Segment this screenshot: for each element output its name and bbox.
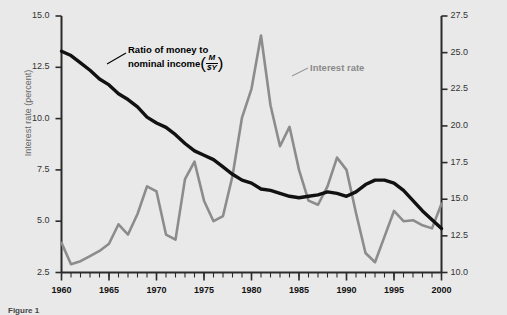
left-tick-label: 12.5: [10, 61, 50, 71]
left-tick-label: 10.0: [10, 113, 50, 123]
chart-figure: Interest rate (percent) M/$Y. Ratio of m…: [0, 0, 507, 315]
right-tick-label: 27.5: [451, 10, 491, 20]
right-tick-label: 20.0: [451, 120, 491, 130]
x-tick-label: 1985: [279, 285, 319, 295]
left-tick-label: 2.5: [10, 267, 50, 277]
x-tick-label: 1975: [184, 285, 224, 295]
x-tick-label: 2000: [422, 285, 462, 295]
annotation-interest-rate: Interest rate: [310, 62, 364, 73]
annotation-ratio-line2-text: nominal income: [128, 58, 200, 69]
right-tick-label: 10.0: [451, 267, 491, 277]
fraction-m-over-sy: M$Y: [206, 54, 218, 72]
left-tick-label: 5.0: [10, 215, 50, 225]
left-tick-label: 7.5: [10, 164, 50, 174]
right-tick-label: 25.0: [451, 47, 491, 57]
chart-background: [0, 0, 507, 315]
x-tick-label: 1990: [327, 285, 367, 295]
right-tick-label: 12.5: [451, 230, 491, 240]
x-tick-label: 1970: [137, 285, 177, 295]
annotation-money-ratio: Ratio of money to nominal income(M$Y): [128, 44, 223, 73]
annotation-ratio-line2: nominal income(M$Y): [128, 55, 223, 73]
x-tick-label: 1960: [42, 285, 82, 295]
right-tick-label: 15.0: [451, 193, 491, 203]
figure-caption: Figure 1: [8, 306, 503, 315]
fraction-denominator: $Y: [206, 64, 218, 73]
x-tick-label: 1965: [89, 285, 129, 295]
right-paren: ): [218, 54, 224, 73]
chart-canvas: [0, 0, 507, 315]
right-tick-label: 17.5: [451, 157, 491, 167]
left-tick-label: 15.0: [10, 10, 50, 20]
x-tick-label: 1995: [374, 285, 414, 295]
right-tick-label: 22.5: [451, 83, 491, 93]
x-tick-label: 1980: [232, 285, 272, 295]
